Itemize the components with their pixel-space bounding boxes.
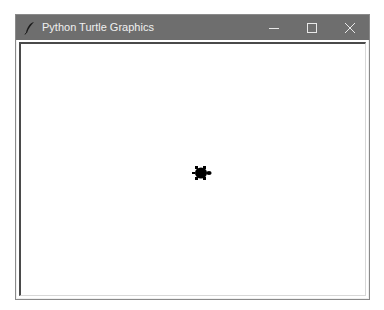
maximize-button[interactable] bbox=[292, 15, 332, 40]
minimize-button[interactable] bbox=[254, 15, 294, 40]
window-title: Python Turtle Graphics bbox=[42, 21, 154, 33]
title-bar[interactable]: Python Turtle Graphics bbox=[16, 15, 369, 40]
feather-icon bbox=[24, 21, 36, 35]
turtle-icon bbox=[192, 164, 214, 182]
turtle-canvas[interactable] bbox=[19, 42, 366, 296]
close-icon bbox=[345, 23, 355, 33]
turtle-window: Python Turtle Graphics bbox=[15, 14, 370, 300]
maximize-icon bbox=[307, 23, 317, 33]
client-area bbox=[17, 40, 368, 298]
minimize-icon bbox=[269, 23, 279, 33]
close-button[interactable] bbox=[330, 15, 370, 40]
